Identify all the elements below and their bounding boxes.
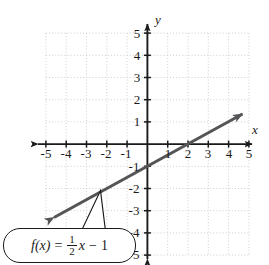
y-tick-label-minus2: -2	[124, 182, 144, 195]
function-formula: f(x) = 1 2 x − 1	[31, 234, 108, 257]
x-tick-label-5: 5	[242, 147, 256, 160]
y-axis-label: y	[155, 13, 161, 26]
formula-variable: x	[79, 238, 85, 254]
function-callout: f(x) = 1 2 x − 1	[3, 228, 136, 263]
y-tick-label-3: 3	[131, 71, 143, 84]
x-tick-label-minus5: -5	[36, 147, 56, 160]
y-tick-label-2: 2	[131, 93, 143, 106]
y-tick-label-4: 4	[131, 49, 143, 62]
formula-numerator: 1	[67, 234, 77, 245]
x-tick-label-3: 3	[201, 147, 215, 160]
formula-equals-sign: =	[54, 238, 62, 254]
x-tick-label-minus4: -4	[56, 147, 76, 160]
x-tick-label-4: 4	[222, 147, 236, 160]
y-tick-label-minus3: -3	[124, 204, 144, 217]
x-tick-label-1: 1	[161, 147, 175, 160]
formula-minus-sign: −	[89, 238, 97, 254]
formula-fraction-one-half: 1 2	[67, 234, 77, 257]
graph-figure: y x -5 -4 -3 -2 -1 1 2 3 4 5 5 4 3 2 1 -…	[0, 0, 269, 265]
x-tick-label-minus3: -3	[76, 147, 96, 160]
y-tick-label-minus1: -1	[124, 160, 144, 173]
x-tick-label-2: 2	[181, 147, 195, 160]
y-tick-label-1: 1	[131, 115, 143, 128]
x-axis-label: x	[252, 123, 258, 136]
x-tick-label-minus2: -2	[96, 147, 116, 160]
y-tick-label-5: 5	[131, 27, 143, 40]
formula-constant: 1	[101, 238, 108, 254]
formula-denominator: 2	[67, 245, 77, 257]
formula-function-name: f(x)	[31, 238, 50, 254]
